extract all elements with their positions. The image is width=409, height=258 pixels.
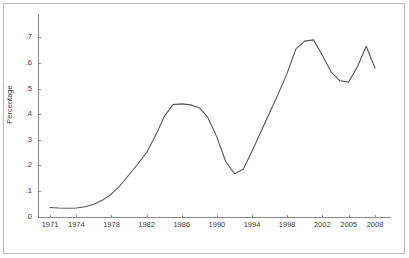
data-series-layer [0, 0, 409, 258]
chart-figure: Percentage .7.6.5.4.3.2.10 1971197419781… [0, 0, 409, 258]
line-series-percentage [50, 40, 375, 208]
plot-area: Percentage .7.6.5.4.3.2.10 1971197419781… [0, 0, 409, 258]
